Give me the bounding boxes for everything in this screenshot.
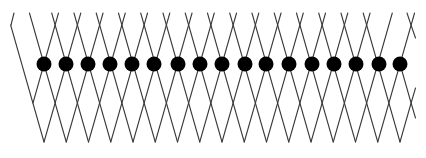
thread-lines — [11, 13, 416, 142]
thread-line — [333, 13, 370, 142]
thread-line — [222, 13, 259, 142]
thread-line — [141, 13, 178, 142]
bead-dot — [349, 57, 364, 72]
thread-line — [363, 13, 400, 142]
lattice-diagram — [0, 0, 426, 158]
thread-line — [341, 13, 378, 142]
thread-line — [74, 13, 111, 142]
thread-line — [274, 13, 311, 142]
bead-dot — [81, 57, 96, 72]
bead-dot — [103, 57, 118, 72]
bead-row — [37, 57, 408, 72]
bead-dot — [259, 57, 274, 72]
thread-edge-segment — [400, 64, 416, 118]
thread-line — [178, 13, 215, 142]
bead-dot — [393, 57, 408, 72]
thread-line — [96, 13, 133, 142]
thread-line — [311, 13, 348, 142]
thread-line — [356, 13, 393, 142]
thread-line — [200, 13, 237, 142]
bead-dot — [282, 57, 297, 72]
thread-line — [163, 13, 200, 142]
thread-line — [29, 13, 66, 142]
bead-dot — [238, 57, 253, 72]
thread-line — [185, 13, 222, 142]
thread-line — [207, 13, 244, 142]
bead-dot — [125, 57, 140, 72]
thread-line — [252, 13, 289, 142]
thread-line — [66, 13, 103, 142]
thread-edge-segment — [400, 88, 416, 142]
thread-line — [52, 13, 89, 142]
bead-dot — [327, 57, 342, 72]
thread-line — [230, 13, 267, 142]
thread-line — [319, 13, 356, 142]
bead-dot — [305, 57, 320, 72]
thread-line — [133, 13, 170, 142]
thread-edge-segment — [11, 13, 14, 25]
bead-dot — [37, 57, 52, 72]
thread-line — [118, 13, 155, 142]
thread-line — [378, 13, 415, 142]
bead-dot — [193, 57, 208, 72]
thread-line — [289, 13, 326, 142]
thread-line — [155, 13, 192, 142]
bead-dot — [147, 57, 162, 72]
bead-dot — [59, 57, 74, 72]
thread-line — [267, 13, 304, 142]
thread-line — [244, 13, 281, 142]
thread-line — [44, 13, 81, 142]
bead-dot — [372, 57, 387, 72]
bead-dot — [171, 57, 186, 72]
thread-line — [111, 13, 148, 142]
thread-line — [296, 13, 333, 142]
bead-dot — [215, 57, 230, 72]
thread-line — [89, 13, 126, 142]
